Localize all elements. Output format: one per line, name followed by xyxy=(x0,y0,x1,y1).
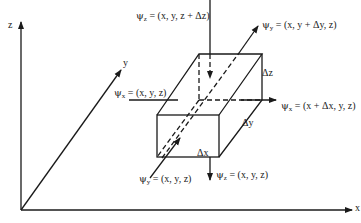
psi-x-right-label: ψx = (x + Δx, y, z) xyxy=(281,101,356,113)
z-axis-label: z xyxy=(8,20,12,30)
x-axis-label: x xyxy=(355,203,360,213)
psi-y-front-label: ψy = (x, y, z) xyxy=(139,174,191,186)
box-hidden-edge-depth xyxy=(157,100,199,157)
dz-label: Δz xyxy=(262,68,273,78)
psi-z-bottom-label: ψz = (x, y, z) xyxy=(216,170,268,182)
psi-z-top-label: ψz = (x, y, z + Δz) xyxy=(136,11,210,23)
psi-y-internal-dashed xyxy=(162,53,239,158)
psi-y-back-arrow xyxy=(239,26,258,53)
psi-x-left-label: ψx = (x, y, z) xyxy=(114,88,166,100)
dx-label: Δx xyxy=(197,148,208,158)
dy-label: Δy xyxy=(242,118,253,128)
box-front-face xyxy=(157,115,219,157)
y-axis-label: y xyxy=(123,58,128,68)
y-axis xyxy=(21,70,121,210)
psi-y-back-label: ψy = (x, y + Δy, z) xyxy=(262,20,337,32)
psi-y-front-arrow xyxy=(150,138,180,178)
